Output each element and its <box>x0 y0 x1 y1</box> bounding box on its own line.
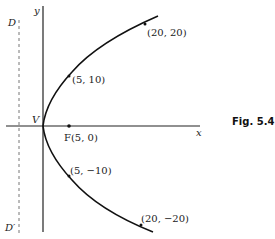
point-label-5-neg10: (5, −10) <box>70 165 112 176</box>
vertex-label: V <box>32 114 41 125</box>
y-axis-label: y <box>33 5 40 16</box>
point-label-20-neg20: (20, −20) <box>141 213 189 224</box>
directrix-bottom-label: D′ <box>4 222 16 233</box>
point-5-10 <box>68 75 71 78</box>
point-20-20 <box>144 23 147 26</box>
point-label-5-10: (5, 10) <box>72 74 105 85</box>
directrix-top-label: D <box>7 17 16 28</box>
figure-caption: Fig. 5.4 <box>232 116 274 127</box>
x-axis-label: x <box>196 127 202 138</box>
point-label-20-20: (20, 20) <box>147 27 187 38</box>
parabola-curve <box>43 16 158 232</box>
focus-point <box>67 124 71 128</box>
parabola-diagram: y x D D′ V F(5, 0) (20, 20) (5, 10) (5, … <box>0 0 275 239</box>
focus-label: F(5, 0) <box>64 132 98 143</box>
